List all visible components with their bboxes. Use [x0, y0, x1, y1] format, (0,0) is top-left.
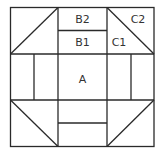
label-c2: C2 — [131, 13, 146, 26]
label-b2: B2 — [75, 13, 90, 26]
label-b1: B1 — [75, 36, 90, 49]
label-a: A — [79, 73, 87, 86]
diagonal-top-left — [11, 8, 59, 55]
diagonal-bottom-right — [107, 100, 154, 147]
quilt-block-diagram: B2 B1 C2 C1 A — [0, 0, 162, 154]
diagonal-bottom-left — [11, 100, 59, 147]
label-c1: C1 — [112, 36, 127, 49]
